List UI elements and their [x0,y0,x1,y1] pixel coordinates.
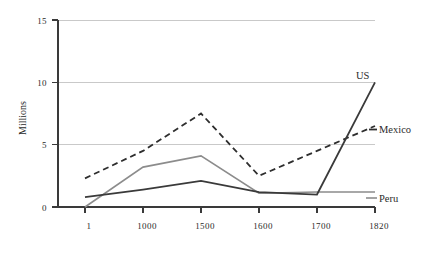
y-tick-label-0: 0 [42,203,47,213]
series-labels: US Mexico Peru [356,70,411,204]
gridlines [58,20,375,145]
y-axis-ticks [52,20,58,207]
y-tick-label-10: 10 [37,78,47,88]
series-label-peru: Peru [379,193,399,204]
x-tick-label-1820: 1820 [369,221,389,231]
series-label-mexico: Mexico [379,124,411,135]
x-axis-ticks [85,207,375,213]
line-chart: 15 10 5 0 Millions 1 1000 1500 1600 1700… [0,0,426,254]
x-tick-label-1700: 1700 [311,221,331,231]
y-tick-label-15: 15 [37,16,47,26]
x-axis-tick-labels: 1 1000 1500 1600 1700 1820 [87,221,389,231]
series-line-us [85,82,375,197]
chart-container: 15 10 5 0 Millions 1 1000 1500 1600 1700… [0,0,426,254]
y-axis-title: Millions [17,101,28,135]
series-line-peru [85,156,375,207]
x-tick-label-1: 1 [87,221,92,231]
x-tick-label-1500: 1500 [195,221,215,231]
series-label-us: US [356,70,370,81]
x-tick-label-1600: 1600 [253,221,273,231]
series-line-mexico [85,114,375,179]
x-tick-label-1000: 1000 [137,221,157,231]
y-axis-tick-labels: 15 10 5 0 [37,16,47,213]
axes [58,20,375,207]
y-tick-label-5: 5 [42,140,47,150]
